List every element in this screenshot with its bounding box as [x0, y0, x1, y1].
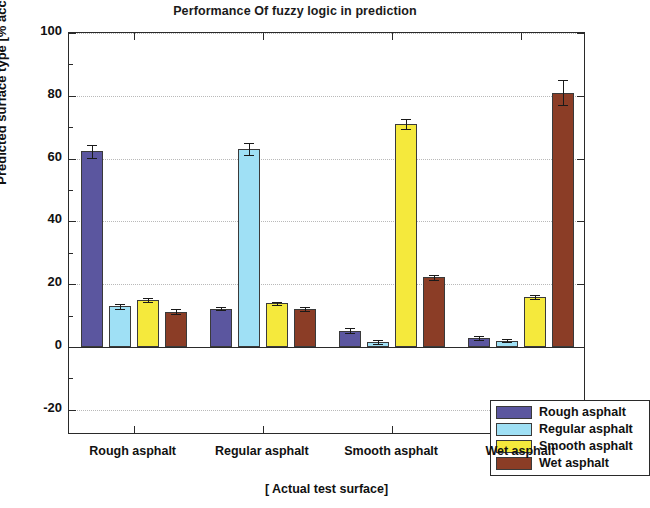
gridline [69, 284, 584, 285]
x-tick [392, 426, 393, 433]
bar [395, 124, 417, 347]
bar [423, 277, 445, 347]
gridline [69, 159, 584, 160]
y-tick-label: 60 [48, 149, 62, 164]
error-bar-cap [171, 314, 181, 315]
error-bar-cap [115, 304, 125, 305]
y-tick [69, 284, 76, 285]
x-axis-title: [ Actual test surface] [68, 482, 585, 496]
y-tick-label: 40 [48, 211, 62, 226]
y-tick-right [577, 284, 584, 285]
legend-item[interactable]: Regular asphalt [496, 421, 644, 438]
bar [294, 309, 316, 347]
error-bar-cap [558, 80, 568, 81]
bar [552, 93, 574, 347]
error-bar-cap [530, 299, 540, 300]
y-tick-right [577, 221, 584, 222]
error-bar-cap [401, 129, 411, 130]
error-bar-cap [401, 119, 411, 120]
error-bar-cap [502, 342, 512, 343]
error-bar-cap [87, 158, 97, 159]
error-bar-cap [429, 280, 439, 281]
x-tick-label: Wet asphalt [485, 444, 555, 458]
error-bar-cap [300, 307, 310, 308]
bar [137, 300, 159, 347]
error-bar-cap [300, 311, 310, 312]
legend-item[interactable]: Rough asphalt [496, 404, 644, 421]
zero-baseline [69, 347, 584, 348]
error-bar-cap [345, 328, 355, 329]
x-tick-top [134, 33, 135, 40]
y-tick-label: -20 [43, 400, 62, 415]
gridline [69, 33, 584, 34]
y-tick [69, 159, 76, 160]
y-tick [69, 221, 76, 222]
error-bar-cap [502, 339, 512, 340]
error-bar-cap [244, 143, 254, 144]
bar [238, 149, 260, 347]
bar [81, 151, 103, 347]
legend-label: Wet asphalt [539, 457, 609, 470]
x-tick [134, 426, 135, 433]
legend-label: Regular asphalt [539, 423, 633, 436]
y-minor-tick [69, 253, 73, 254]
error-bar [406, 119, 407, 128]
error-bar-cap [216, 310, 226, 311]
error-bar-cap [474, 340, 484, 341]
error-bar-cap [171, 309, 181, 310]
bar [109, 306, 131, 347]
y-tick-right [577, 96, 584, 97]
legend-swatch-regular-asphalt [496, 423, 532, 436]
error-bar-cap [244, 155, 254, 156]
legend: Rough asphalt Regular asphalt Smooth asp… [490, 400, 650, 476]
x-tick [263, 426, 264, 433]
y-tick-right [577, 159, 584, 160]
y-minor-tick [69, 378, 73, 379]
error-bar-cap [87, 145, 97, 146]
bar [210, 309, 232, 347]
x-tick-top [521, 33, 522, 40]
gridline [69, 96, 584, 97]
y-tick-right [577, 347, 584, 348]
chart-title: Performance Of fuzzy logic in prediction [0, 4, 590, 18]
y-minor-tick [69, 316, 73, 317]
error-bar-cap [558, 105, 568, 106]
y-tick [69, 33, 76, 34]
x-tick-top [392, 33, 393, 40]
y-tick-label: 100 [40, 23, 62, 38]
y-tick-label: 80 [48, 86, 62, 101]
y-tick-label: 0 [55, 337, 62, 352]
bar [524, 297, 546, 347]
y-tick [69, 96, 76, 97]
bar [266, 303, 288, 347]
error-bar-cap [143, 298, 153, 299]
y-minor-tick [69, 64, 73, 65]
legend-swatch-wet-asphalt [496, 457, 532, 470]
legend-swatch-rough-asphalt [496, 406, 532, 419]
error-bar-cap [530, 295, 540, 296]
y-minor-tick [69, 190, 73, 191]
error-bar-cap [429, 275, 439, 276]
plot-area: Rough asphalt Regular asphalt Smooth asp… [68, 32, 585, 434]
bar [165, 312, 187, 347]
error-bar-cap [115, 309, 125, 310]
y-tick [69, 347, 76, 348]
error-bar-cap [272, 305, 282, 306]
x-tick-label: Rough asphalt [89, 444, 176, 458]
y-tick-label: 20 [48, 274, 62, 289]
error-bar-cap [373, 340, 383, 341]
error-bar-cap [474, 336, 484, 337]
x-tick-label: Smooth asphalt [344, 444, 438, 458]
plot-inner [69, 33, 584, 433]
error-bar-cap [143, 302, 153, 303]
gridline [69, 221, 584, 222]
y-minor-tick [69, 127, 73, 128]
error-bar-cap [373, 344, 383, 345]
error-bar [563, 80, 564, 105]
x-tick-label: Regular asphalt [215, 444, 309, 458]
error-bar [92, 145, 93, 158]
y-axis-title: Predicted surface type [% accuracy] [0, 0, 9, 233]
error-bar [249, 143, 250, 156]
legend-label: Rough asphalt [539, 406, 626, 419]
